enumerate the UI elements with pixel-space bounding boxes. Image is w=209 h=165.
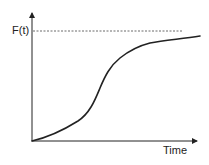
chart-canvas <box>0 0 209 165</box>
f-of-t-curve <box>32 36 200 141</box>
x-axis-label: Time <box>163 145 187 156</box>
y-axis-label: F(t) <box>12 25 29 36</box>
